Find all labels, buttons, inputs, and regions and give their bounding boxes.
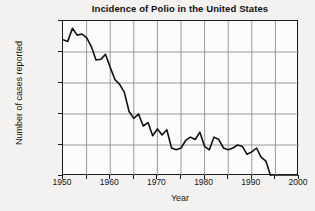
x-tick-mark: [227, 175, 228, 179]
x-tick-mark: [86, 175, 87, 179]
x-tick-mark: [180, 175, 181, 179]
x-tick-mark: [251, 175, 252, 179]
gridlines: [63, 21, 299, 176]
plot-svg: [63, 21, 299, 176]
x-tick-mark: [156, 175, 157, 179]
y-axis-label: Number of cases reported: [14, 18, 24, 168]
x-tick-mark: [274, 175, 275, 179]
x-tick-mark: [204, 175, 205, 179]
x-tick-mark: [62, 175, 63, 179]
x-tick-mark: [109, 175, 110, 179]
x-tick-mark: [133, 175, 134, 179]
chart-figure: Incidence of Polio in the United States …: [0, 0, 315, 211]
x-tick-mark: [298, 175, 299, 179]
plot-area: [62, 20, 298, 175]
x-axis-label: Year: [62, 193, 298, 203]
chart-title: Incidence of Polio in the United States: [62, 3, 298, 14]
